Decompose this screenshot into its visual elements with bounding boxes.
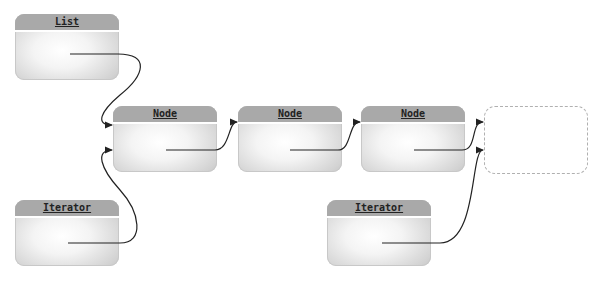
arrow-node2-to-node3 bbox=[290, 122, 360, 150]
arrow-iterator1-to-node1 bbox=[68, 150, 137, 243]
arrow-iterator2-to-null bbox=[382, 150, 483, 243]
arrow-list-to-node1 bbox=[70, 54, 140, 125]
linked-list-diagram: List Node Node Node Iterator Iterator bbox=[0, 0, 603, 282]
arrow-node1-to-node2 bbox=[166, 122, 237, 150]
arrow-node3-to-null bbox=[414, 122, 483, 150]
connector-lines bbox=[0, 0, 603, 282]
